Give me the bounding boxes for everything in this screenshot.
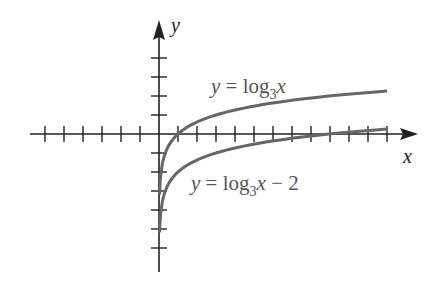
y-axis-arrow-icon [153,20,165,40]
log-graph: y x y = log3x y = log3x − 2 [0,0,442,293]
chart: y x y = log3x y = log3x − 2 [0,0,442,293]
curve1-label: y = log3x [209,74,287,102]
curve2-label: y = log3x − 2 [189,171,299,199]
x-axis-label: x [402,145,412,167]
y-axis-label: y [169,14,180,37]
